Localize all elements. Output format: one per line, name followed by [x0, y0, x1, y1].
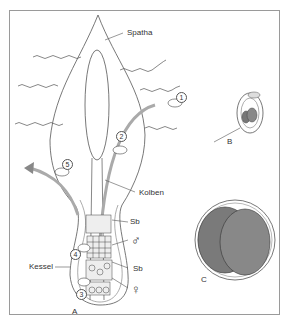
male-symbol: ♂ — [131, 234, 141, 247]
label-sb-lower: Sb — [133, 265, 143, 273]
step-2: 2 — [116, 131, 127, 142]
label-sb-upper: Sb — [130, 218, 140, 226]
step-3: 3 — [76, 289, 87, 300]
label-kolben: Kolben — [139, 189, 164, 197]
step-1: 1 — [176, 92, 187, 103]
label-kessel: Kessel — [29, 263, 53, 271]
label-panel-a: A — [72, 308, 77, 316]
label-panel-c: C — [201, 276, 207, 284]
step-4: 4 — [70, 249, 81, 260]
step-5: 5 — [62, 159, 73, 170]
label-panel-b: B — [227, 138, 232, 146]
arum-diagram — [0, 0, 291, 329]
female-symbol: ♀ — [131, 283, 141, 296]
figure: Spatha Kolben Kessel Sb Sb ♂ ♀ A B C 1 2… — [0, 0, 291, 329]
label-spatha: Spatha — [127, 29, 152, 37]
